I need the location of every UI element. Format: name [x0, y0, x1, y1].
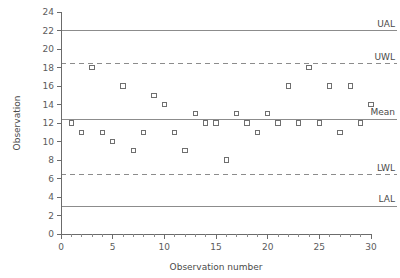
y-axis-tick-label: 4: [48, 192, 54, 202]
x-axis-tick-label: 10: [159, 242, 171, 252]
limit-label-ual: UAL: [377, 19, 395, 29]
control-chart-canvas: UALUWLMeanLWLLAL 024681012141618202224 0…: [0, 0, 400, 278]
limit-label-uwl: UWL: [374, 52, 395, 62]
y-axis-tick-label: 20: [43, 44, 55, 54]
y-axis-tick-label: 22: [43, 26, 54, 36]
y-axis-tick-label: 8: [48, 155, 54, 165]
y-axis-tick-label: 24: [43, 7, 55, 17]
y-axis-tick-label: 6: [48, 174, 54, 184]
y-axis-tick-label: 18: [43, 63, 55, 73]
y-axis-tick-label: 2: [48, 211, 54, 221]
limit-label-lal: LAL: [379, 194, 395, 204]
x-axis-tick-label: 30: [365, 242, 377, 252]
y-axis-title: Observation: [12, 96, 22, 151]
y-axis-tick-label: 14: [43, 100, 55, 110]
limit-label-mean: Mean: [370, 107, 395, 117]
y-axis-tick-label: 12: [43, 118, 54, 128]
limit-label-lwl: LWL: [377, 163, 395, 173]
x-axis-tick-label: 25: [314, 242, 325, 252]
control-chart: UALUWLMeanLWLLAL 024681012141618202224 0…: [0, 0, 400, 278]
x-axis-title: Observation number: [170, 262, 263, 272]
x-axis-tick-label: 20: [262, 242, 274, 252]
y-axis-tick-label: 10: [43, 137, 55, 147]
x-axis-tick-label: 0: [58, 242, 64, 252]
x-axis-tick-label: 15: [210, 242, 221, 252]
x-axis-tick-label: 5: [110, 242, 116, 252]
y-axis-tick-label: 16: [43, 81, 55, 91]
y-axis-tick-label: 0: [48, 229, 54, 239]
